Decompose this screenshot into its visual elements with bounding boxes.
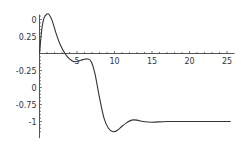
- x-tick-label: 20: [184, 57, 194, 66]
- y-tick-label: 0: [31, 16, 36, 25]
- y-tick-label: 0: [31, 84, 36, 93]
- ticks: [40, 16, 228, 132]
- y-tick-label: -0.25: [16, 67, 37, 76]
- x-tick-label: 15: [147, 57, 157, 66]
- y-tick-label: -1: [29, 118, 37, 127]
- line-chart: 51015202500.25-0.250-0.75-1: [0, 0, 244, 147]
- tick-labels: 51015202500.25-0.250-0.75-1: [16, 16, 232, 127]
- data-curve: [40, 14, 231, 132]
- y-tick-label: -0.75: [16, 101, 37, 110]
- x-tick-label: 10: [109, 57, 119, 66]
- y-tick-label: 0.25: [19, 33, 37, 42]
- x-tick-label: 25: [222, 57, 232, 66]
